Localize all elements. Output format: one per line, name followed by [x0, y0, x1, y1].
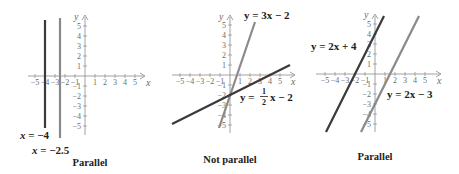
- x-tick-label: −3: [51, 78, 60, 87]
- graph-1: −5 −4 −3 −2 −1 1 2 3 4 5 5 4 3 2 1 −1 −2…: [19, 11, 151, 168]
- x-tick-label: 4: [413, 76, 417, 85]
- x-tick-label: 5: [278, 77, 282, 86]
- y-tick-label: 5: [367, 20, 371, 29]
- y-tick-label: 5: [222, 21, 226, 30]
- y-axis-label: y: [218, 11, 224, 22]
- figure-canvas: −5 −4 −3 −2 −1 1 2 3 4 5 5 4 3 2 1 −1 −2…: [0, 0, 459, 174]
- x-tick-label: −3: [341, 76, 350, 85]
- equation-x-eq-neg2-5: x = −2.5: [31, 144, 70, 156]
- y-tick-label: 4: [77, 32, 81, 41]
- x-axis-label: x: [145, 77, 151, 88]
- y-tick-label: −4: [72, 112, 81, 121]
- caption-graph-1: Parallel: [73, 157, 108, 168]
- x-tick-label: 3: [113, 78, 117, 87]
- x-axis-label: x: [436, 75, 442, 86]
- svg-text:1: 1: [262, 87, 266, 96]
- y-tick-label: 3: [77, 42, 81, 51]
- x-tick-label: 2: [393, 76, 397, 85]
- equation-y-eq-3x-minus-2: y = 3x − 2: [244, 9, 290, 21]
- y-tick-label: −3: [72, 102, 81, 111]
- x-axis-label: x: [290, 76, 296, 87]
- x-tick-label: 1: [238, 77, 242, 86]
- x-tick-label: −4: [331, 76, 340, 85]
- graph-2: −5 −4 −3 −2 −1 1 2 3 4 5 5 4 3 2 1 −1 −2…: [172, 9, 296, 165]
- x-tick-label: −2: [61, 78, 70, 87]
- y-tick-label: −3: [362, 100, 371, 109]
- x-tick-label: 3: [403, 76, 407, 85]
- x-tick-label: −5: [176, 77, 185, 86]
- equation-x-eq-neg4: x = −4: [19, 129, 50, 141]
- caption-graph-3: Parallel: [358, 151, 393, 162]
- x-tick-label: 2: [103, 78, 107, 87]
- y-tick-label: 2: [77, 52, 81, 61]
- x-tick-label: −5: [321, 76, 330, 85]
- x-tick-label: −3: [196, 77, 205, 86]
- x-tick-label: 4: [268, 77, 272, 86]
- y-tick-label: 3: [222, 41, 226, 50]
- y-tick-label: −2: [362, 90, 371, 99]
- equation-y-eq-2x-minus-3: y = 2x − 3: [387, 88, 433, 100]
- y-tick-label: −2: [72, 92, 81, 101]
- y-tick-label: −1: [362, 80, 371, 89]
- x-tick-label: −4: [186, 77, 195, 86]
- y-tick-label: 2: [367, 50, 371, 59]
- equation-y-eq-half-x-minus-2: y = 1 2 x − 2: [240, 87, 293, 107]
- x-tick-label: 4: [123, 78, 127, 87]
- caption-graph-2: Not parallel: [203, 154, 256, 165]
- svg-text:2: 2: [262, 98, 266, 107]
- svg-text:x − 2: x − 2: [270, 91, 293, 103]
- y-tick-label: −1: [72, 82, 81, 91]
- y-tick-label: 5: [77, 22, 81, 31]
- y-tick-label: −5: [72, 122, 81, 131]
- y-tick-label: 1: [367, 60, 371, 69]
- equation-y-eq-2x-plus-4: y = 2x + 4: [311, 40, 357, 52]
- svg-text:y =: y =: [240, 91, 255, 103]
- y-tick-label: 2: [222, 51, 226, 60]
- y-tick-label: 1: [77, 62, 81, 71]
- y-tick-label: 4: [222, 31, 226, 40]
- x-tick-label: 5: [423, 76, 427, 85]
- x-tick-label: −5: [31, 78, 40, 87]
- graph-3: −5 −4 −3 −2 −1 1 2 3 4 5 5 4 3 2 1 −1 −2…: [311, 9, 442, 162]
- y-tick-label: −1: [217, 81, 226, 90]
- y-tick-label: 4: [367, 30, 371, 39]
- y-tick-label: 1: [222, 61, 226, 70]
- y-axis-label: y: [363, 9, 369, 20]
- x-tick-label: 5: [133, 78, 137, 87]
- x-tick-label: −2: [206, 77, 215, 86]
- x-tick-label: 1: [93, 78, 97, 87]
- y-axis-label: y: [73, 11, 79, 22]
